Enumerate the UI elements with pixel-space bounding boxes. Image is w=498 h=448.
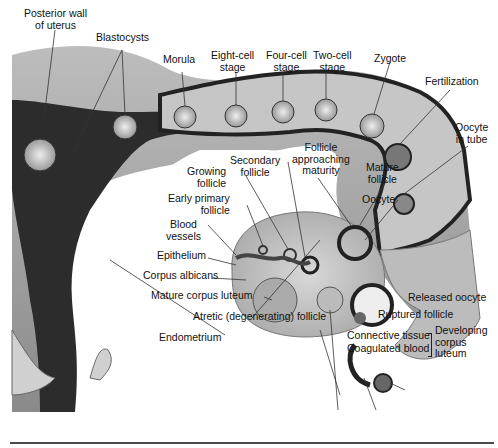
label-secondary-follicle: Secondary follicle bbox=[230, 155, 280, 178]
label-mature-follicle: Mature follicle bbox=[366, 162, 399, 185]
label-four-cell: Four-cell stage bbox=[266, 50, 307, 73]
label-oocyte: Oocyte bbox=[362, 194, 395, 206]
label-morula: Morula bbox=[163, 54, 195, 66]
label-corpus-albicans: Corpus albicans bbox=[143, 270, 218, 282]
label-oocyte-in-tube: Oocyte in tube bbox=[455, 122, 488, 145]
label-released-oocyte: Released oocyte bbox=[408, 292, 486, 304]
label-coagulated-blood: Coagulated blood bbox=[347, 343, 429, 355]
label-epithelium: Epithelium bbox=[157, 250, 206, 262]
label-zygote: Zygote bbox=[374, 53, 406, 65]
label-posterior-wall: Posterior wall of uterus bbox=[24, 8, 87, 31]
label-follicle-approaching-maturity: Follicle approaching maturity bbox=[292, 142, 350, 177]
label-fertilization: Fertilization bbox=[425, 76, 479, 88]
label-blastocysts: Blastocysts bbox=[96, 32, 149, 44]
label-ruptured-follicle: Ruptured follicle bbox=[378, 309, 453, 321]
label-two-cell: Two-cell stage bbox=[313, 50, 352, 73]
label-early-primary-follicle: Early primary follicle bbox=[168, 193, 230, 216]
bracket-developing-corpus-luteum bbox=[428, 333, 432, 357]
label-endometrium: Endometrium bbox=[159, 332, 221, 344]
label-growing-follicle: Growing follicle bbox=[187, 166, 226, 189]
label-developing-corpus-luteum: Developing corpus luteum bbox=[435, 325, 488, 360]
label-connective-tissue: Connective tissue bbox=[347, 330, 430, 342]
label-mature-corpus-luteum: Mature corpus luteum bbox=[151, 290, 253, 302]
label-atretic-follicle: Atretic (degenerating) follicle bbox=[193, 311, 326, 323]
label-blood-vessels: Blood vessels bbox=[166, 219, 201, 242]
label-eight-cell: Eight-cell stage bbox=[211, 50, 254, 73]
